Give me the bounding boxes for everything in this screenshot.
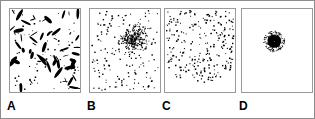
panel-b-graphic: [90, 9, 160, 92]
panel-a-graphic: [10, 9, 80, 92]
panel-a-oriented-ellipses: [9, 8, 81, 93]
panel-d-spiral-pinwheel: [241, 8, 313, 93]
panel-c-graphic: [165, 9, 235, 92]
panel-label-c: C: [162, 100, 171, 113]
panel-b-dot-cluster: [89, 8, 161, 93]
panel-label-a: A: [7, 100, 16, 113]
panel-label-b: B: [87, 100, 96, 113]
panel-c-radial-gradient-dots: [164, 8, 236, 93]
figure-container: A B C D: [0, 0, 315, 119]
panel-d-graphic: [242, 9, 312, 92]
panel-label-d: D: [239, 100, 248, 113]
